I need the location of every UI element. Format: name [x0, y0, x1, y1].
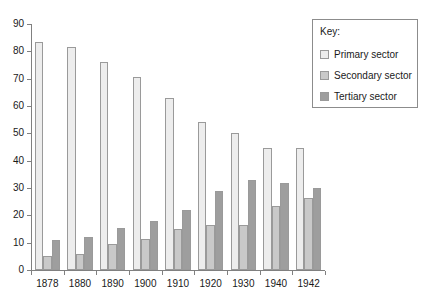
bar [76, 254, 85, 270]
bar [150, 221, 159, 270]
bar [174, 229, 183, 270]
legend: Key: Primary sectorSecondary sectorTerti… [312, 19, 418, 108]
bar [272, 206, 281, 270]
legend-swatch-icon [320, 71, 329, 80]
bar [133, 77, 142, 270]
legend-item-label: Tertiary sector [334, 91, 397, 102]
bar [215, 191, 224, 270]
legend-item-label: Primary sector [334, 49, 398, 60]
x-axis-line [31, 270, 325, 271]
legend-title: Key: [320, 26, 417, 37]
x-tick-mark [260, 271, 261, 275]
x-tick-mark [227, 271, 228, 275]
legend-item[interactable]: Primary sector [320, 44, 417, 65]
x-tick-mark [292, 271, 293, 275]
bar [206, 225, 215, 270]
bar [304, 198, 313, 270]
bar [117, 228, 126, 270]
x-tick-mark [325, 271, 326, 275]
y-tick-label: 20 [0, 210, 24, 220]
legend-rows: Primary sectorSecondary sectorTertiary s… [320, 44, 417, 107]
bar [231, 133, 240, 270]
x-tick-mark [194, 271, 195, 275]
bar [165, 98, 174, 270]
bar [313, 188, 322, 270]
legend-item[interactable]: Secondary sector [320, 65, 417, 86]
y-tick-mark [27, 188, 32, 189]
y-tick-mark [27, 133, 32, 134]
bar [84, 237, 93, 270]
bar [280, 183, 289, 270]
bar-chart: 0102030405060708090 18781880189019001910… [0, 0, 330, 303]
legend-item-label: Secondary sector [334, 70, 412, 81]
bar [248, 180, 257, 270]
x-tick-label: 1942 [289, 278, 328, 290]
bar [52, 240, 61, 270]
bar [43, 256, 52, 270]
bar [263, 148, 272, 270]
bar [100, 62, 109, 270]
y-tick-mark [27, 106, 32, 107]
y-axis-line [31, 24, 32, 271]
x-tick-mark [129, 271, 130, 275]
y-tick-mark [27, 215, 32, 216]
y-tick-label: 0 [0, 265, 24, 275]
bar [198, 122, 207, 270]
y-tick-label: 40 [0, 156, 24, 166]
y-tick-label: 60 [0, 101, 24, 111]
y-tick-label: 10 [0, 238, 24, 248]
y-tick-label: 70 [0, 74, 24, 84]
legend-swatch-icon [320, 50, 329, 59]
y-tick-label: 50 [0, 128, 24, 138]
y-tick-mark [27, 24, 32, 25]
y-tick-label: 30 [0, 183, 24, 193]
y-tick-label: 80 [0, 46, 24, 56]
bar [182, 210, 191, 270]
bar [239, 225, 248, 270]
bar [108, 244, 117, 270]
bar [35, 42, 44, 270]
x-tick-mark [162, 271, 163, 275]
x-tick-mark [31, 271, 32, 275]
bar [141, 239, 150, 270]
y-tick-mark [27, 79, 32, 80]
y-tick-label: 90 [0, 19, 24, 29]
bar [67, 47, 76, 270]
y-tick-mark [27, 243, 32, 244]
y-tick-mark [27, 161, 32, 162]
legend-swatch-icon [320, 92, 329, 101]
y-tick-mark [27, 51, 32, 52]
x-tick-mark [64, 271, 65, 275]
bar [296, 148, 305, 270]
legend-item[interactable]: Tertiary sector [320, 86, 417, 107]
x-tick-mark [96, 271, 97, 275]
